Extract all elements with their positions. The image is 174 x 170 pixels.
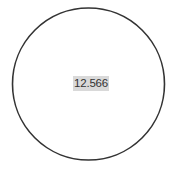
diagram-canvas: 12.566: [0, 0, 174, 170]
circle-value-label: 12.566: [73, 76, 109, 91]
